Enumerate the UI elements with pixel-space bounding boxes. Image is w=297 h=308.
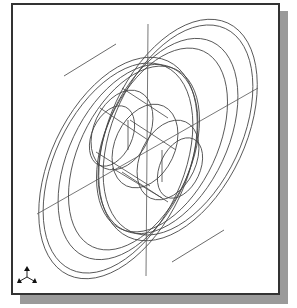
triad-icon [17,266,37,283]
center-axis-lines [37,24,258,276]
hub-generator-lines [96,88,176,202]
wire-ellipse [148,131,211,206]
wireframe-drawing [0,0,297,308]
wire-ellipse [42,46,226,271]
wire-line [172,230,224,262]
wire-ellipse [70,28,254,253]
wire-line [64,44,116,76]
